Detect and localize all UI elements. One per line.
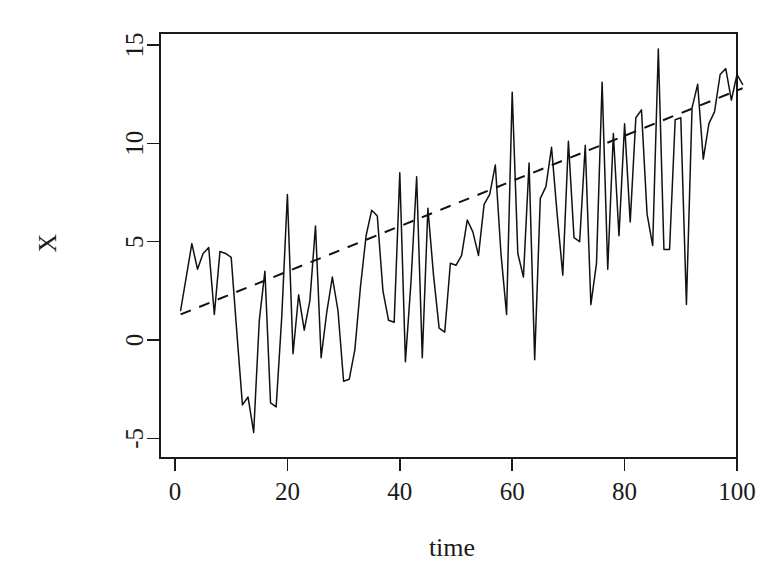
x-tick-label-4: 80: [612, 478, 637, 505]
x-tick-label-3: 60: [500, 478, 525, 505]
x-tick-label-0: 0: [169, 478, 182, 505]
y-tick-label-2: 5: [121, 235, 148, 248]
chart-figure: -5051015020406080100 X time: [0, 0, 775, 584]
y-tick-label-0: -5: [121, 428, 148, 449]
y-tick-label-3: 10: [121, 131, 148, 156]
axes-group: [160, 33, 737, 458]
data-series-group: [181, 49, 743, 433]
x-tick-label-5: 100: [718, 478, 756, 505]
plot-box: [160, 33, 737, 458]
x-tick-label-2: 40: [387, 478, 412, 505]
x-tick-label-1: 20: [275, 478, 300, 505]
trend-line-group: [181, 88, 743, 314]
trend-line-path: [181, 88, 743, 314]
ticks-group: [147, 45, 737, 471]
plot-canvas: -5051015020406080100 X time: [0, 0, 775, 584]
y-tick-label-1: 0: [121, 334, 148, 347]
y-tick-label-4: 15: [121, 33, 148, 58]
y-axis-title: X: [33, 233, 62, 252]
x-axis-title: time: [429, 533, 475, 562]
series-path-0: [181, 49, 743, 433]
